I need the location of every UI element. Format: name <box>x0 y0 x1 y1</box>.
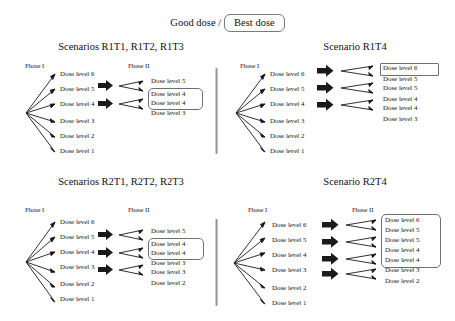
dose-label: Dose level 6 <box>60 71 94 78</box>
dose-label: Dose level 4 <box>383 105 417 112</box>
dose-label: Dose level 2 <box>60 133 94 140</box>
dose-label: Dose level 5 <box>272 237 306 244</box>
dose-label: Dose level 6 <box>272 222 306 229</box>
dose-label: Dose level 5 <box>385 227 419 234</box>
panel-divider-bottom <box>215 219 218 306</box>
dose-label: Dose level 6 <box>270 71 304 78</box>
dose-label: Dose level 1 <box>272 300 306 307</box>
good-dose-label: Good dose / <box>170 17 221 28</box>
dose-label: Dose level 4 <box>270 101 304 108</box>
phase1-caption-r1t4: Phase I <box>240 62 259 69</box>
dose-label: Dose level 4 <box>272 252 306 259</box>
dose-label: Dose level 3 <box>270 118 304 125</box>
phase2-caption-r1t123: Phase II <box>128 62 149 69</box>
diagram-canvas: Good dose / Best dose Scenarios R1T1, R1… <box>0 0 455 321</box>
panel-title-r2t123: Scenarios R2T1, R2T2, R2T3 <box>26 176 216 187</box>
dose-label: Dose level 3 <box>151 110 185 117</box>
dose-label: Dose level 2 <box>272 285 306 292</box>
panel-title-r2t4: Scenario R2T4 <box>285 176 425 187</box>
dose-label: Dose level 1 <box>60 148 94 155</box>
phase1-caption-r2t123: Phase I <box>25 206 44 213</box>
dose-label: Dose level 5 <box>383 85 417 92</box>
best-dose-box: Best dose <box>224 14 285 32</box>
dose-label: Dose level 3 <box>60 264 94 271</box>
panel-title-r1t4: Scenario R1T4 <box>285 41 425 52</box>
dose-label: Dose level 4 <box>385 247 419 254</box>
dose-label: Dose level 6 <box>60 219 94 226</box>
transition-arrows-r1t4 <box>317 66 379 118</box>
panel-divider-top <box>215 68 218 154</box>
dose-label: Dose level 4 <box>60 101 94 108</box>
dose-label: Dose level 2 <box>60 281 94 288</box>
phase2-caption-r2t123: Phase II <box>128 206 149 213</box>
phase1-caption-r1t123: Phase I <box>25 62 44 69</box>
phase1-fan-arrows-r1t123 <box>24 70 60 156</box>
dose-label: Dose level 1 <box>270 148 304 155</box>
phase1-fan-arrows-r2t4 <box>232 218 270 308</box>
dose-label: Dose level 4 <box>60 249 94 256</box>
transition-arrows-r1t123 <box>98 80 148 116</box>
dose-label: Dose level 5 <box>151 78 185 85</box>
dose-label: Dose level 5 <box>385 237 419 244</box>
dose-label: Dose level 5 <box>151 228 185 235</box>
dose-label: Dose level 4 <box>151 241 185 248</box>
dose-label: Dose level 4 <box>383 96 417 103</box>
dose-label: Dose level 4 <box>151 100 185 107</box>
dose-label: Dose level 2 <box>385 278 419 285</box>
header-band: Good dose / Best dose <box>0 12 455 32</box>
dose-label: Dose level 4 <box>151 250 185 257</box>
dose-label: Dose level 3 <box>385 267 419 274</box>
dose-label: Dose level 4 <box>151 91 185 98</box>
dose-label: Dose level 5 <box>60 234 94 241</box>
dose-label: Dose level 3 <box>151 269 185 276</box>
dose-label: Dose level 6 <box>383 65 417 72</box>
dose-label: Dose level 3 <box>272 267 306 274</box>
dose-label: Dose level 4 <box>385 257 419 264</box>
dose-label: Dose level 5 <box>270 86 304 93</box>
transition-arrows-r2t4 <box>322 219 382 283</box>
phase1-fan-arrows-r2t123 <box>24 218 60 306</box>
transition-arrows-r2t123 <box>98 229 148 281</box>
dose-label: Dose level 2 <box>151 280 185 287</box>
dose-label: Dose level 5 <box>383 76 417 83</box>
dose-label: Dose level 5 <box>60 86 94 93</box>
dose-label: Dose level 3 <box>151 260 185 267</box>
dose-label: Dose level 3 <box>60 118 94 125</box>
phase1-fan-arrows-r1t4 <box>234 70 270 156</box>
phase2-caption-r2t4: Phase II <box>352 206 373 213</box>
panel-title-r1t123: Scenarios R1T1, R1T2, R1T3 <box>26 41 216 52</box>
dose-label: Dose level 2 <box>270 133 304 140</box>
dose-label: Dose level 3 <box>383 116 417 123</box>
dose-label: Dose level 6 <box>385 217 419 224</box>
dose-label: Dose level 1 <box>60 296 94 303</box>
phase1-caption-r2t4: Phase I <box>248 206 267 213</box>
